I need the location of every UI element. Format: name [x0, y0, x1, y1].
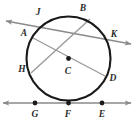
dots-layer [33, 56, 105, 105]
point-label-b: B [80, 4, 86, 14]
point-dot-e [100, 101, 105, 106]
point-label-d: D [110, 74, 117, 84]
point-label-g: G [32, 110, 39, 120]
geometry-figure: JBAKHCDGFE [0, 0, 134, 122]
point-label-e: E [99, 110, 105, 120]
point-label-c: C [65, 67, 71, 77]
point-dot-g [33, 101, 38, 106]
point-dot-c [66, 56, 71, 61]
point-label-h: H [18, 65, 25, 75]
point-label-j: J [36, 8, 41, 18]
point-label-f: F [65, 110, 71, 120]
geometry-canvas [0, 0, 134, 122]
point-dot-f [66, 101, 71, 106]
point-label-a: A [21, 29, 27, 39]
point-label-k: K [111, 30, 117, 40]
